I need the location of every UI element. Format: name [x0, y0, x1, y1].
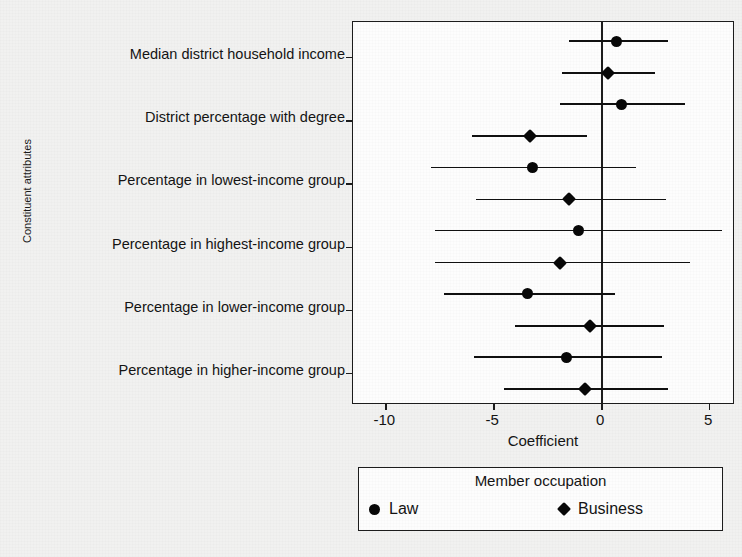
business-marker-icon: [557, 502, 571, 516]
legend-title: Member occupation: [359, 472, 722, 489]
x-axis-tick: [709, 403, 710, 410]
point-marker-law[interactable]: [611, 36, 622, 47]
legend-entry-law[interactable]: Law: [369, 500, 418, 518]
x-axis-title: Coefficient: [352, 432, 734, 449]
y-axis-category-label: Median district household income: [130, 47, 345, 62]
y-axis-category-labels: Median district household incomeDistrict…: [20, 0, 345, 430]
point-marker-law[interactable]: [522, 288, 533, 299]
point-marker-business[interactable]: [601, 66, 615, 80]
y-axis-tick: [346, 57, 353, 58]
y-axis-tick: [346, 310, 353, 311]
x-axis-tick: [385, 403, 386, 410]
y-axis-category-label: Percentage in lower-income group: [124, 300, 345, 315]
point-marker-business[interactable]: [523, 129, 537, 143]
point-marker-business[interactable]: [562, 192, 576, 206]
point-marker-business[interactable]: [553, 256, 567, 270]
point-marker-law[interactable]: [527, 162, 538, 173]
point-marker-business[interactable]: [583, 319, 597, 333]
y-axis-category-label: Percentage in highest-income group: [112, 237, 345, 252]
legend: Member occupation Law Business: [358, 467, 723, 531]
y-axis-tick: [346, 120, 353, 121]
legend-entry-business[interactable]: Business: [559, 500, 643, 518]
coefficient-plot-figure: Constituent attributes Median district h…: [0, 0, 742, 557]
y-axis-tick: [346, 183, 353, 184]
x-axis-tick-label: 0: [596, 411, 604, 428]
point-marker-law[interactable]: [616, 99, 627, 110]
y-axis-tick: [346, 247, 353, 248]
point-marker-law[interactable]: [561, 352, 572, 363]
legend-label-law: Law: [389, 500, 418, 518]
x-axis-tick-label: 5: [704, 411, 712, 428]
plot-area: [352, 21, 734, 404]
law-marker-icon: [369, 504, 380, 515]
point-marker-business[interactable]: [578, 382, 592, 396]
y-axis-tick: [346, 373, 353, 374]
x-axis-tick-label: -10: [374, 411, 396, 428]
x-axis-tick: [493, 403, 494, 410]
y-axis-category-label: Percentage in higher-income group: [119, 363, 346, 378]
zero-reference-line: [601, 22, 602, 403]
x-axis-tick-label: -5: [486, 411, 499, 428]
x-axis-tick: [601, 403, 602, 410]
point-marker-law[interactable]: [573, 225, 584, 236]
y-axis-category-label: District percentage with degree: [145, 110, 345, 125]
legend-label-business: Business: [578, 500, 643, 518]
y-axis-category-label: Percentage in lowest-income group: [118, 173, 345, 188]
